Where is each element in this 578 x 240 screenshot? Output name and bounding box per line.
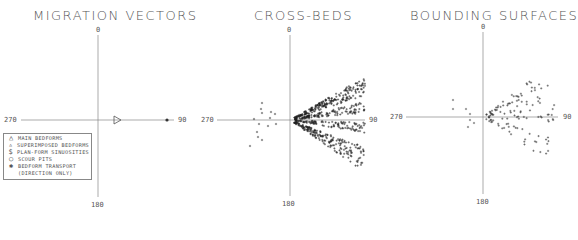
bounding-surface-points [452,81,555,155]
legend-item-transport-note: (DIRECTION ONLY) [6,170,89,177]
legend: △ MAIN BEDFORMS ▵ SUPERIMPOSED BEDFORMS … [3,133,92,180]
transport-marker [165,118,168,121]
legend-item-scour-pits: ○ SCOUR PITS [6,156,89,163]
legend-item-transport: ✱ BEDFORM TRANSPORT [6,163,89,170]
crossbed-points [249,78,366,167]
legend-item-sinuosities: $ PLAN-FORM SINUOSITIES [6,149,89,156]
legend-item-main-bedforms: △ MAIN BEDFORMS [6,135,89,142]
legend-item-superimposed: ▵ SUPERIMPOSED BEDFORMS [6,142,89,149]
star-icon: ✱ [6,163,16,170]
